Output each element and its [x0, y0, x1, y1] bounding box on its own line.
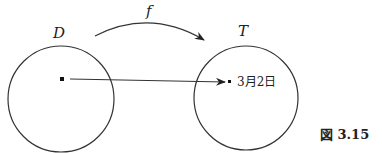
function-arc-arrow [95, 23, 204, 40]
mapping-arrow [70, 79, 225, 82]
domain-element-point [60, 77, 64, 81]
function-label: f [145, 2, 154, 20]
figure-caption: 図 3.15 [320, 127, 369, 142]
mapped-value-label: 3月2日 [237, 75, 276, 89]
codomain-element-point [228, 80, 231, 83]
domain-label: D [52, 24, 65, 42]
domain-set-circle [8, 46, 114, 152]
mapping-diagram: D T f 3月2日 図 3.15 [0, 0, 382, 153]
codomain-set-circle [194, 46, 298, 150]
codomain-label: T [238, 22, 249, 40]
